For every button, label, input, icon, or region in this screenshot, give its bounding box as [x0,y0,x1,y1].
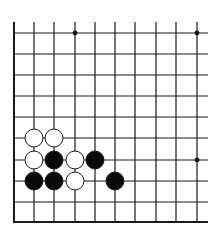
black-stone [86,151,104,169]
star-point-icon [195,158,200,163]
board-grid [13,22,208,222]
star-point-icon [195,31,200,36]
black-stone [25,172,43,190]
black-stone [45,172,63,190]
black-stone [106,172,124,190]
white-stone [25,129,43,147]
white-stone [66,172,84,190]
black-stone [45,151,63,169]
white-stone [66,151,84,169]
go-board [0,0,224,238]
white-stone [45,129,63,147]
white-stone [25,151,43,169]
star-point-icon [73,31,78,36]
